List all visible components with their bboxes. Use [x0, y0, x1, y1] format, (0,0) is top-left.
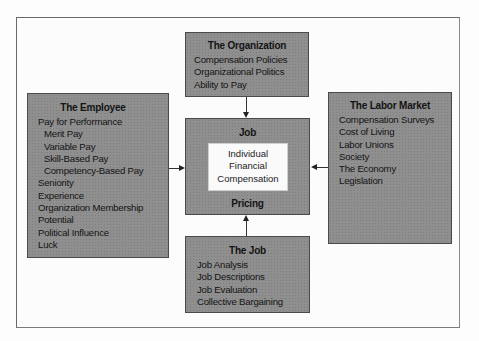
inner-line: Compensation: [209, 173, 287, 185]
employee-subitem: Skill-Based Pay: [38, 153, 168, 165]
arrow-organization-to-center: [246, 97, 247, 113]
organization-item: Ability to Pay: [194, 79, 308, 91]
job-item: Job Evaluation: [197, 284, 309, 296]
job-title: The Job: [186, 244, 309, 257]
employee-item: Luck: [38, 239, 168, 251]
organization-title: The Organization: [186, 39, 308, 52]
arrow-head-right-icon: [179, 165, 185, 171]
arrow-head-left-icon: [311, 164, 317, 170]
employee-subitem: Merit Pay: [38, 128, 168, 140]
arrow-job-to-center: [246, 220, 247, 236]
labor-market-box: The Labor Market Compensation Surveys Co…: [328, 92, 452, 244]
labor-market-title: The Labor Market: [329, 99, 451, 112]
employee-subitem: Variable Pay: [38, 141, 168, 153]
inner-line: Individual: [209, 148, 287, 160]
job-pricing-box: Job Individual Financial Compensation Pr…: [185, 118, 310, 215]
job-item: Job Descriptions: [197, 271, 309, 283]
job-item: Collective Bargaining: [197, 296, 309, 308]
labor-market-item: The Economy: [339, 163, 451, 175]
job-box: The Job Job Analysis Job Descriptions Jo…: [185, 236, 310, 313]
labor-market-item: Cost of Living: [339, 126, 451, 138]
employee-item: Potential: [38, 214, 168, 226]
employee-subitem: Competency-Based Pay: [38, 165, 168, 177]
employee-item: Organization Membership: [38, 202, 168, 214]
organization-item: Compensation Policies: [194, 54, 308, 66]
labor-market-item: Compensation Surveys: [339, 114, 451, 126]
labor-market-item: Society: [339, 151, 451, 163]
employee-box: The Employee Pay for Performance Merit P…: [27, 93, 169, 258]
job-pricing-top-label: Job: [186, 126, 309, 139]
employee-item: Pay for Performance: [38, 116, 168, 128]
labor-market-item: Legislation: [339, 175, 451, 187]
organization-item: Organizational Politics: [194, 66, 308, 78]
organization-box: The Organization Compensation Policies O…: [185, 32, 309, 97]
job-pricing-bottom-label: Pricing: [186, 197, 309, 210]
inner-line: Financial: [209, 160, 287, 172]
job-item: Job Analysis: [197, 259, 309, 271]
labor-market-item: Labor Unions: [339, 139, 451, 151]
employee-item: Political Influence: [38, 227, 168, 239]
employee-title: The Employee: [28, 101, 158, 114]
employee-item: Seniority: [38, 177, 168, 189]
individual-financial-compensation-box: Individual Financial Compensation: [208, 143, 288, 191]
arrow-labor-market-to-center: [316, 167, 328, 168]
arrow-head-down-icon: [243, 112, 249, 118]
employee-item: Experience: [38, 190, 168, 202]
arrow-head-up-icon: [243, 215, 249, 221]
